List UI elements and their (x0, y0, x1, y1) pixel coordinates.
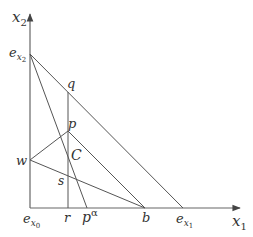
point-label-e-x0: ex0 (23, 211, 40, 230)
line-p-b (68, 131, 145, 208)
line-w-b (30, 160, 145, 208)
point-label-e-x1: ex1 (176, 211, 193, 230)
x-axis-label: x1 (232, 212, 247, 232)
line-w-p (30, 131, 68, 160)
point-label-p: p (68, 116, 77, 131)
point-label-b: b (142, 210, 150, 225)
point-label-w: w (16, 153, 27, 168)
point-label-q: q (67, 76, 75, 91)
diagram-canvas: x2 x1 ex2 ex0 ex1 q p C w s r pα b (0, 0, 253, 237)
y-axis-label: x2 (12, 8, 27, 28)
point-label-r: r (64, 210, 71, 225)
line-ex2-ex1 (30, 54, 183, 208)
point-label-s: s (58, 174, 64, 188)
point-label-p-alpha: pα (82, 207, 98, 225)
point-label-e-x2: ex2 (9, 45, 26, 64)
point-label-C: C (71, 147, 82, 163)
